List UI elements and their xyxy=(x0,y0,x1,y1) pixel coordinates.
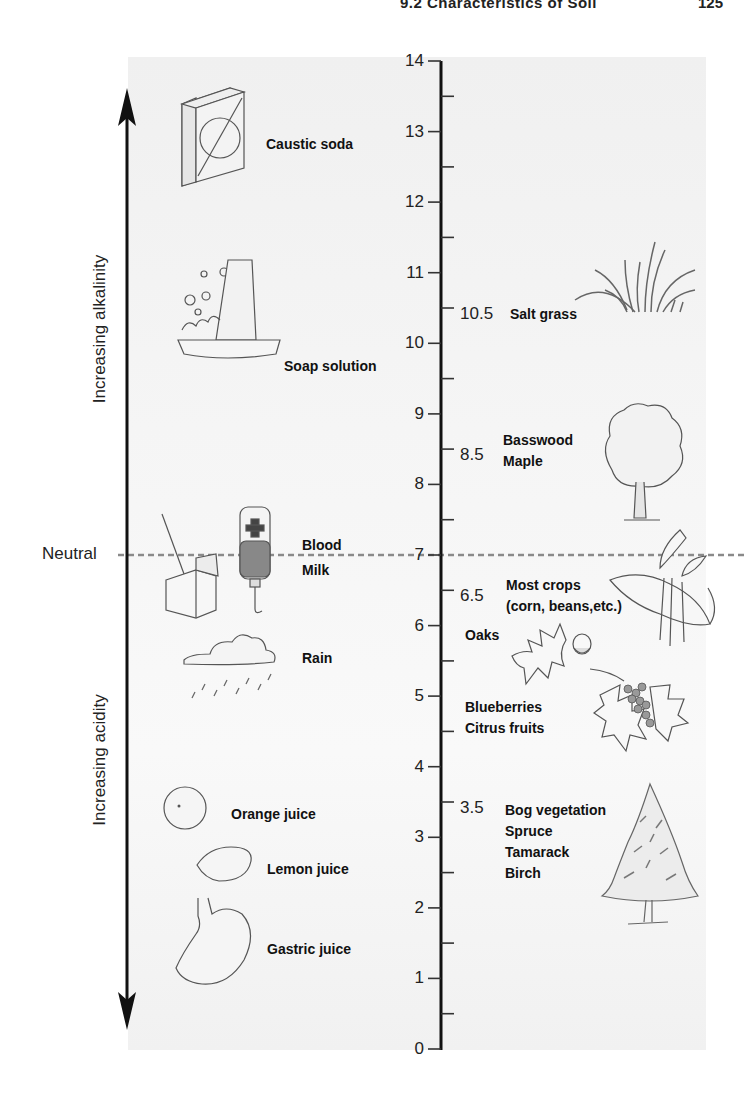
tick-label-13: 13 xyxy=(384,123,424,141)
orange-icon xyxy=(163,785,213,835)
label-maple: Maple xyxy=(503,452,543,471)
tick-label-9: 9 xyxy=(384,405,424,423)
rain-cloud-icon xyxy=(180,620,280,700)
tick-label-0: 0 xyxy=(384,1040,424,1058)
tick-label-3: 3 xyxy=(384,828,424,846)
crops-icon xyxy=(600,528,720,648)
oak-leaf-icon xyxy=(508,622,598,688)
label-tamarack: Tamarack xyxy=(505,843,569,862)
tick-label-7: 7 xyxy=(384,546,424,564)
stomach-icon xyxy=(172,898,252,988)
tick-label-11: 11 xyxy=(384,264,424,282)
milk-carton-icon xyxy=(160,510,230,610)
deciduous-tree-icon xyxy=(600,400,685,525)
tick-label-14: 14 xyxy=(384,52,424,70)
half-label-8-5: 8.5 xyxy=(460,446,484,464)
half-label-10-5: 10.5 xyxy=(460,305,493,323)
label-birch: Birch xyxy=(505,864,541,883)
increasing-alkalinity-label: Increasing alkalinity xyxy=(90,239,110,419)
label-citrus-fruits: Citrus fruits xyxy=(465,719,544,738)
label-milk: Milk xyxy=(302,561,329,580)
label-basswood: Basswood xyxy=(503,431,573,450)
iv-bottle-icon xyxy=(236,505,276,617)
label-blueberries: Blueberries xyxy=(465,698,542,717)
blueberry-icon xyxy=(590,665,690,755)
label-blood: Blood xyxy=(302,536,342,555)
label-caustic-soda: Caustic soda xyxy=(266,135,353,154)
bathtub-icon xyxy=(176,250,286,360)
tick-label-2: 2 xyxy=(384,899,424,917)
label-bog-vegetation: Bog vegetation xyxy=(505,801,606,820)
lemon-icon xyxy=(195,845,255,885)
label-soap-solution: Soap solution xyxy=(284,357,377,376)
tick-label-1: 1 xyxy=(384,969,424,987)
label-rain: Rain xyxy=(302,649,332,668)
neutral-label: Neutral xyxy=(42,544,97,564)
tick-label-10: 10 xyxy=(384,334,424,352)
dishwash-box-icon xyxy=(180,88,255,188)
label-gastric-juice: Gastric juice xyxy=(267,940,351,959)
increasing-acidity-label: Increasing acidity xyxy=(90,675,110,845)
label-oaks: Oaks xyxy=(465,626,499,645)
label-most-crops: Most crops xyxy=(506,576,581,595)
salt-grass-icon xyxy=(565,240,705,315)
label-orange-juice: Orange juice xyxy=(231,805,316,824)
half-label-6-5: 6.5 xyxy=(460,587,484,605)
tick-label-5: 5 xyxy=(384,687,424,705)
label-lemon-juice: Lemon juice xyxy=(267,860,349,879)
conifer-tree-icon xyxy=(600,782,700,932)
half-label-3-5: 3.5 xyxy=(460,799,484,817)
label-spruce: Spruce xyxy=(505,822,552,841)
tick-label-8: 8 xyxy=(384,475,424,493)
tick-label-4: 4 xyxy=(384,758,424,776)
tick-label-6: 6 xyxy=(384,617,424,635)
tick-label-12: 12 xyxy=(384,193,424,211)
